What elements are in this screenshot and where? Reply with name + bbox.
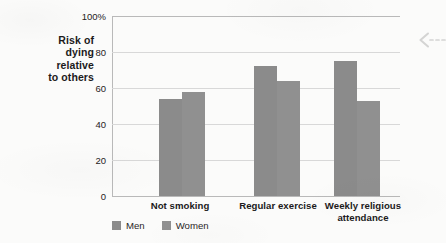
plot-area [112, 16, 400, 196]
bar-men-weekly-religious-attendance[interactable] [334, 61, 357, 196]
legend-item-men[interactable]: Men [112, 221, 145, 231]
chart-figure: Risk of dying relative to others 100% 80… [0, 0, 446, 243]
bar-women-not-smoking[interactable] [182, 92, 205, 196]
x-label-weekly-religious-attendance-line-2: attendance [310, 212, 416, 224]
y-tick-20: 20 [95, 156, 106, 166]
y-tick-40: 40 [95, 120, 106, 130]
legend-swatch-women-icon [162, 221, 171, 230]
x-axis-line [112, 196, 400, 197]
bar-group-weekly-religious-attendance [334, 16, 380, 196]
legend-swatch-men-icon [112, 221, 121, 230]
bar-group-regular-exercise [254, 16, 300, 196]
y-axis-tick-labels: 100% 80 60 40 20 0 [60, 16, 106, 196]
bar-men-regular-exercise[interactable] [254, 66, 277, 196]
dashed-left-arrow-icon [419, 31, 446, 49]
x-label-weekly-religious-attendance-line-1: Weekly religious [310, 200, 416, 212]
x-label-weekly-religious-attendance: Weekly religious attendance [310, 200, 416, 223]
bar-group-not-smoking [159, 16, 205, 196]
legend-label-women: Women [176, 221, 209, 231]
y-tick-60: 60 [95, 84, 106, 94]
bar-women-regular-exercise[interactable] [277, 81, 300, 196]
x-label-not-smoking-line-1: Not smoking [130, 200, 230, 212]
y-tick-0: 0 [101, 192, 106, 202]
legend-label-men: Men [126, 221, 145, 231]
chart-legend: Men Women [112, 221, 209, 231]
x-label-not-smoking: Not smoking [130, 200, 230, 212]
bar-men-not-smoking[interactable] [159, 99, 182, 196]
bar-women-weekly-religious-attendance[interactable] [357, 101, 380, 196]
y-tick-80: 80 [95, 48, 106, 58]
legend-item-women[interactable]: Women [162, 221, 209, 231]
y-tick-100: 100% [82, 12, 106, 22]
